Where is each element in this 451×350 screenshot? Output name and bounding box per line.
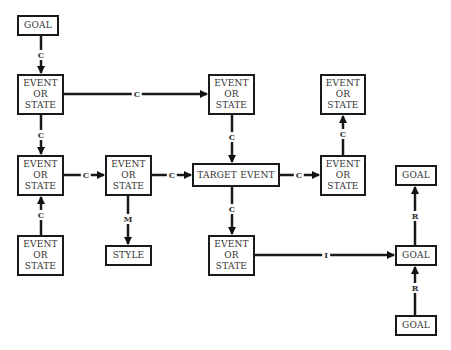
node-label: EVENT OR STATE (214, 78, 249, 111)
node-label: GOAL (402, 170, 430, 181)
node-es-r1-right: EVENT OR STATE (320, 74, 366, 115)
node-es-r2-mid: EVENT OR STATE (105, 155, 152, 196)
node-label: TARGET EVENT (197, 170, 274, 181)
edge-label: R (410, 283, 421, 293)
node-es-r2-right: EVENT OR STATE (320, 155, 366, 196)
node-label: EVENT OR STATE (111, 159, 146, 192)
edge-label: C (132, 89, 142, 99)
node-goal-r3-right: GOAL (395, 245, 437, 266)
edge-label: C (36, 130, 46, 140)
edge-label: C (81, 170, 91, 180)
node-es-r2-left: EVENT OR STATE (17, 155, 64, 196)
node-label: STYLE (113, 250, 145, 261)
node-label: EVENT OR STATE (23, 159, 58, 192)
node-label: GOAL (24, 20, 52, 31)
node-label: EVENT OR STATE (326, 159, 361, 192)
edge-label: R (410, 211, 421, 221)
edge-label: C (36, 210, 46, 220)
edge-label: C (338, 129, 348, 139)
edge-label: C (227, 204, 237, 214)
node-es-r3-left: EVENT OR STATE (17, 235, 64, 276)
node-es-r1-left: EVENT OR STATE (17, 74, 64, 115)
node-es-r3-mid: EVENT OR STATE (208, 235, 255, 276)
node-goal-bottom: GOAL (395, 315, 437, 336)
node-es-r1-mid: EVENT OR STATE (208, 74, 255, 115)
edge-label: C (227, 132, 237, 142)
edge-label: C (36, 50, 46, 60)
node-label: EVENT OR STATE (214, 239, 249, 272)
node-label: GOAL (402, 250, 430, 261)
node-goal-top: GOAL (17, 15, 59, 36)
node-goal-r2-right: GOAL (395, 165, 437, 186)
node-label: EVENT OR STATE (23, 239, 58, 272)
edge-label: M (122, 214, 135, 224)
edge-label: I (322, 250, 330, 260)
edge-label: C (167, 170, 177, 180)
node-target-event: TARGET EVENT (192, 163, 280, 187)
node-label: EVENT OR STATE (326, 78, 361, 111)
node-style: STYLE (105, 245, 152, 266)
edge-label: C (294, 170, 304, 180)
node-label: GOAL (402, 320, 430, 331)
node-label: EVENT OR STATE (23, 78, 58, 111)
